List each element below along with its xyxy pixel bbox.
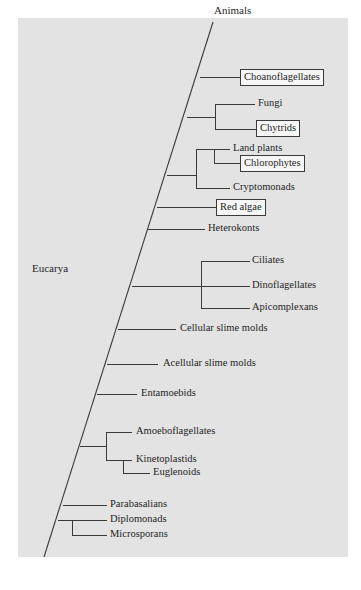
label-ciliates: Ciliates (252, 254, 284, 266)
label-heterokonts: Heterokonts (208, 222, 259, 234)
label-choanoflagellates: Choanoflagellates (240, 69, 324, 86)
label-land-plants: Land plants (233, 142, 282, 154)
label-fungi: Fungi (258, 97, 283, 109)
label-eucarya-root: Eucarya (32, 262, 68, 274)
label-kinetoplastids: Kinetoplastids (136, 453, 197, 465)
label-cellular-slime-molds: Cellular slime molds (180, 322, 268, 334)
label-amoeboflagellates: Amoeboflagellates (136, 425, 215, 437)
label-parabasalians: Parabasalians (110, 498, 167, 510)
label-chlorophytes: Chlorophytes (240, 155, 305, 172)
label-diplomonads: Diplomonads (110, 513, 167, 525)
label-animals: Animals (214, 4, 251, 16)
label-euglenoids: Euglenoids (153, 466, 200, 478)
label-red-algae: Red algae (216, 199, 266, 216)
label-microsporans: Microsporans (110, 528, 168, 540)
label-acellular-slime-molds: Acellular slime molds (163, 357, 256, 369)
label-entamoebids: Entamoebids (141, 387, 196, 399)
label-chytrids: Chytrids (256, 120, 300, 137)
phylogenetic-tree-lines (0, 0, 361, 590)
label-apicomplexans: Apicomplexans (252, 301, 318, 313)
label-dinoflagellates: Dinoflagellates (252, 279, 316, 291)
label-cryptomonads: Cryptomonads (233, 181, 295, 193)
